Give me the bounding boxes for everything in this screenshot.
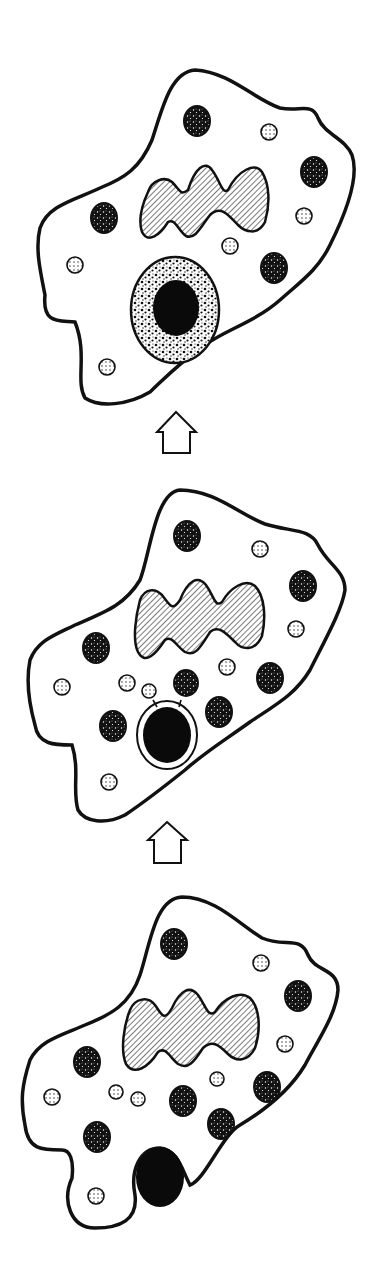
engulfed-particle: [136, 1147, 184, 1207]
nucleus: [123, 990, 259, 1070]
nucleus: [135, 580, 264, 658]
phagosome: [137, 700, 197, 769]
phagocytosis-diagram: [0, 0, 381, 1281]
phagolysosome: [131, 257, 219, 363]
arrow-up-icon: [148, 822, 187, 863]
arrow-up-icon: [157, 412, 196, 453]
stage-2-cell: [28, 490, 345, 821]
stage-1-cell: [22, 897, 338, 1228]
stage-3-cell: [38, 70, 354, 404]
